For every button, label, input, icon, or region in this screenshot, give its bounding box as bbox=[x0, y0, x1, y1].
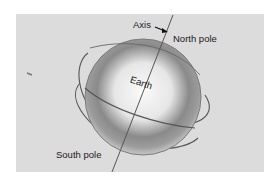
axis-label: Axis bbox=[133, 20, 151, 30]
south-pole-label: South pole bbox=[56, 150, 101, 160]
earth-globe bbox=[85, 39, 201, 155]
north-pole-label: North pole bbox=[173, 34, 217, 44]
